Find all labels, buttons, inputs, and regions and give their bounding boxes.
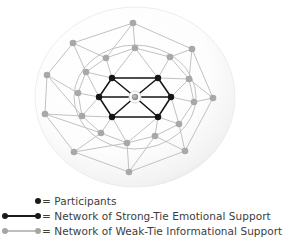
legend-line-icon — [5, 230, 37, 232]
ego-node-core — [132, 94, 138, 100]
legend-label: = Participants — [42, 194, 117, 208]
ego-center-node — [129, 91, 141, 103]
legend: = Participants = Network of Strong-Tie E… — [0, 190, 299, 248]
legend-label: = Network of Strong-Tie Emotional Suppor… — [42, 209, 271, 223]
weak-tie-node — [182, 148, 189, 155]
weak-tie-node — [103, 55, 110, 62]
legend-dot-icon — [35, 198, 41, 204]
legend-marker-weak-tie — [0, 224, 42, 238]
participant-node — [155, 114, 161, 120]
weak-tie-node — [42, 111, 49, 118]
legend-label: = Network of Weak-Tie Informational Supp… — [42, 224, 282, 238]
weak-tie-node — [83, 69, 90, 76]
legend-row: = Participants — [0, 193, 117, 208]
weak-tie-node — [210, 95, 217, 102]
legend-dot-icon — [35, 213, 41, 219]
weak-tie-node — [191, 99, 198, 106]
weak-tie-node — [176, 121, 183, 128]
weak-tie-node — [124, 140, 131, 147]
social-network-figure-page: = Participants = Network of Strong-Tie E… — [0, 0, 299, 248]
legend-dot-icon — [2, 228, 8, 234]
participant-node — [109, 75, 115, 81]
weak-tie-node — [132, 45, 139, 52]
weak-tie-node — [186, 76, 193, 83]
weak-tie-node — [167, 54, 174, 61]
network-diagram — [0, 0, 299, 190]
weak-tie-node — [98, 130, 105, 137]
participant-node — [155, 75, 161, 81]
weak-tie-node — [70, 40, 77, 47]
legend-marker-strong-tie — [0, 209, 42, 223]
weak-tie-node — [152, 133, 159, 140]
weak-tie-node — [44, 72, 51, 79]
legend-line-icon — [5, 215, 37, 217]
legend-dot-icon — [35, 228, 41, 234]
weak-tie-node — [189, 46, 196, 53]
legend-dot-icon — [2, 213, 8, 219]
weak-tie-node — [71, 149, 78, 156]
participant-node — [96, 94, 102, 100]
legend-row: = Network of Strong-Tie Emotional Suppor… — [0, 208, 271, 223]
legend-marker-participants — [0, 194, 42, 208]
participant-node — [109, 114, 115, 120]
network-diagram-svg — [0, 0, 299, 190]
weak-tie-node — [130, 20, 137, 27]
legend-row: = Network of Weak-Tie Informational Supp… — [0, 223, 282, 238]
weak-tie-node — [126, 169, 133, 176]
participant-node — [168, 94, 174, 100]
weak-tie-node — [75, 90, 82, 97]
weak-tie-node — [79, 113, 86, 120]
